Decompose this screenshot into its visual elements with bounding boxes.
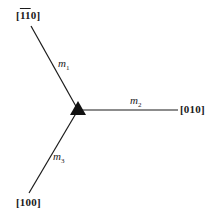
direction-label-110: [110] — [16, 9, 40, 21]
axis-line-110 — [31, 26, 78, 110]
mirror-m1-sub: 1 — [66, 64, 70, 72]
mirror-m3-base: m — [53, 150, 61, 162]
mirror-label-m2: m2 — [130, 94, 141, 109]
bracket-close: ] — [36, 9, 40, 21]
mirror-label-m3: m3 — [53, 150, 64, 165]
mirror-m1-base: m — [58, 57, 66, 69]
mirror-m2-base: m — [130, 94, 138, 106]
mirror-m2-sub: 2 — [138, 101, 142, 109]
triad-triangle-icon — [70, 101, 86, 115]
direction-label-010: [010] — [180, 103, 205, 115]
mirror-label-m1: m1 — [58, 57, 69, 72]
direction-label-100: [100] — [16, 196, 41, 208]
mirror-m3-sub: 3 — [61, 157, 65, 165]
